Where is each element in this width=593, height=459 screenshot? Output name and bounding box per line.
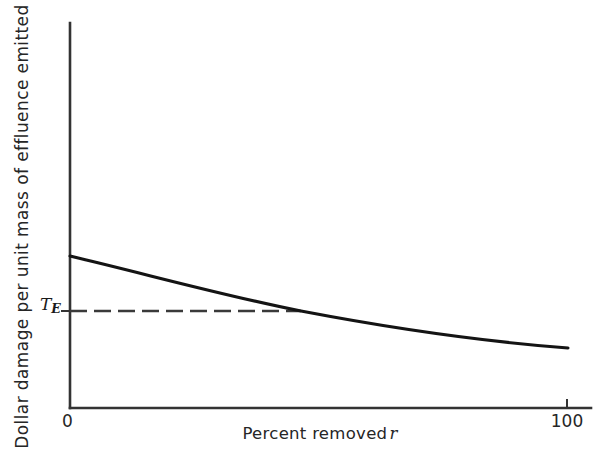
y-axis-label-text: Dollar damage per unit mass of effluence… — [12, 4, 32, 454]
threshold-label: TE — [40, 294, 61, 316]
plot-area — [0, 0, 593, 459]
x-axis-label-text: Percent removed — [242, 424, 387, 443]
x-axis-label: Percent removedr — [70, 424, 570, 443]
x-axis-variable: r — [387, 424, 397, 443]
chart-figure: Dollar damage per unit mass of effluence… — [0, 0, 593, 459]
threshold-symbol: T — [40, 294, 51, 314]
damage-curve — [70, 256, 568, 348]
threshold-subscript: E — [51, 301, 61, 316]
y-axis-label: Dollar damage per unit mass of effluence… — [0, 0, 44, 459]
